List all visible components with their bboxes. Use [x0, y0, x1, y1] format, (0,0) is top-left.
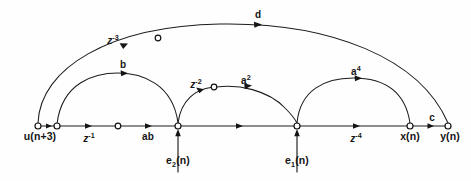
input-arrows-group	[175, 129, 300, 172]
graph-canvas	[0, 0, 471, 181]
branch-label-z1-exponent: -1	[88, 131, 95, 140]
branch-label-z1: z-1	[83, 132, 95, 144]
branch-label-z4: z-4	[350, 132, 362, 144]
branch-label-z3: z-3	[107, 34, 119, 46]
arrowhead-z1	[85, 123, 92, 129]
branch-label-c: c	[429, 113, 435, 123]
arrowhead-z3	[120, 43, 128, 49]
branch-label-d: d	[255, 10, 261, 20]
node-u[interactable]	[35, 123, 41, 129]
node-n3[interactable]	[115, 123, 121, 129]
node-e2-summing[interactable]	[175, 123, 181, 129]
branch-label-a2-exponent: 2	[247, 73, 251, 82]
arc-a4-edge	[297, 78, 410, 123]
arrowhead-e1-input	[294, 129, 300, 136]
branch-label-z2-exponent: -2	[195, 77, 202, 86]
node-e1-summing[interactable]	[294, 123, 300, 129]
input-label-e1-tail: (n)	[295, 154, 309, 166]
branch-label-b: b	[120, 60, 126, 70]
arc-a2-edge	[217, 86, 298, 123]
branch-label-z4-exponent: -4	[355, 131, 362, 140]
arrowhead-b	[121, 70, 128, 76]
arc-a4-group	[297, 75, 410, 123]
arrowhead-e2-input	[175, 129, 181, 136]
node-label-y: y(n)	[440, 131, 460, 142]
arrowhead-d	[254, 22, 262, 28]
node-n5[interactable]	[211, 84, 217, 90]
node-n2[interactable]	[54, 123, 60, 129]
branch-label-z2: z-2	[190, 78, 202, 90]
node-y[interactable]	[445, 123, 451, 129]
branch-label-a4: a4	[351, 65, 361, 77]
branch-label-a2: a2	[241, 74, 251, 86]
node-label-x: x(n)	[400, 131, 420, 142]
arc-b-group	[57, 70, 178, 124]
branch-label-ab: ab	[142, 132, 154, 142]
input-label-e1: e1(n)	[285, 155, 309, 168]
node-label-u: u(n+3)	[24, 131, 56, 142]
branch-label-a4-exponent: 4	[357, 64, 361, 73]
arrowhead-u-to-n2	[46, 123, 52, 128]
branch-label-z3-exponent: -3	[112, 33, 119, 42]
arrowhead-c	[428, 123, 435, 128]
arc-top-group	[38, 22, 448, 123]
arrowhead-e2-to-e1	[236, 123, 243, 129]
node-x[interactable]	[407, 123, 413, 129]
arc-z2-edge	[178, 87, 212, 123]
arrowhead-ab	[145, 123, 152, 129]
input-label-e2: e2(n)	[166, 155, 190, 168]
signal-flow-graph-figure: u(n+3) x(n) y(n) z-1 ab z-4 c b z-2 a2 a…	[0, 0, 471, 181]
arrowhead-z4	[353, 123, 360, 129]
arc-b-edge	[57, 73, 178, 124]
input-label-e2-tail: (n)	[176, 154, 190, 166]
node-top-arc[interactable]	[155, 35, 161, 41]
